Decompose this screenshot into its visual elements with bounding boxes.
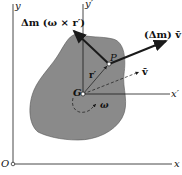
r-prime-label: r′ bbox=[89, 71, 96, 80]
translational-momentum-label: (Δm) v̄ bbox=[144, 30, 181, 40]
y-axis-label: y bbox=[15, 1, 21, 11]
omega-label: ω bbox=[100, 101, 109, 110]
tangential-momentum-label: Δm (ω × r′) bbox=[21, 18, 85, 28]
x-axis-label: x bbox=[174, 159, 180, 169]
origin-label: O bbox=[1, 159, 9, 169]
x-prime-label: x′ bbox=[171, 89, 179, 99]
g-label: G bbox=[73, 88, 82, 98]
origin-point bbox=[11, 162, 15, 166]
p-label: P bbox=[110, 53, 117, 63]
y-prime-label: y′ bbox=[85, 0, 93, 9]
v-bar-label: v̄ bbox=[142, 67, 148, 77]
